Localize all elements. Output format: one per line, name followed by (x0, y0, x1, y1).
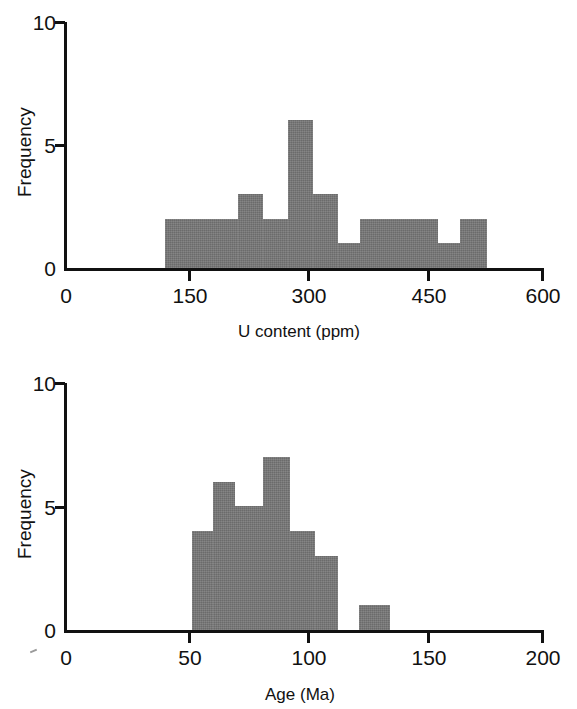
x-axis-line-u (64, 268, 544, 271)
chart-panel-age: Frequency 0 5 10 FT Age: 77.9 ± 6.1 Ma (0, 350, 577, 709)
x-tick-u-300 (307, 271, 310, 281)
bar-u-2 (238, 194, 263, 268)
bar-age-7 (359, 605, 390, 630)
x-tick-age-100 (307, 633, 310, 643)
bar-u-7 (360, 219, 438, 268)
bar-age-1 (192, 531, 213, 630)
x-tick-label-age-100: 100 (279, 647, 339, 668)
x-axis-title-u: U content (ppm) (169, 322, 429, 342)
x-tick-label-age-150: 150 (399, 647, 459, 668)
x-tick-age-150 (427, 633, 430, 643)
x-tick-label-u-450: 450 (399, 285, 459, 306)
bar-u-5 (313, 194, 338, 268)
x-axis-title-age: Age (Ma) (215, 685, 385, 705)
x-tick-label-age-50: 50 (165, 647, 215, 668)
bar-u-6 (338, 243, 360, 268)
x-tick-label-u-300: 300 (279, 285, 339, 306)
x-tick-label-age-200: 200 (513, 647, 573, 668)
x-axis-line-age (64, 630, 544, 633)
bar-u-8 (438, 243, 460, 268)
x-tick-u-150 (188, 271, 191, 281)
bar-u-9 (460, 219, 487, 268)
bar-u-3 (263, 219, 288, 268)
x-tick-label-u-150: 150 (160, 285, 220, 306)
bar-u-4 (288, 120, 313, 268)
x-tick-age-50 (188, 633, 191, 643)
x-tick-u-450 (427, 271, 430, 281)
plot-area-age: Frequency 0 5 10 FT Age: 77.9 ± 6.1 Ma (0, 350, 577, 660)
chart-panel-u-content: Frequency 0 5 10 (0, 0, 577, 350)
x-tick-label-age-0: 0 (46, 647, 86, 668)
bar-series-u-content (0, 0, 577, 268)
bar-age-4 (263, 457, 290, 630)
x-tick-u-600 (541, 271, 544, 281)
x-tick-label-u-0: 0 (46, 285, 86, 306)
bar-age-3 (235, 506, 263, 630)
bar-age-2 (213, 482, 235, 630)
scan-artifact-mark (30, 649, 37, 653)
bar-age-5 (290, 531, 315, 630)
bar-series-age (0, 350, 577, 630)
x-tick-age-200 (541, 633, 544, 643)
x-tick-label-u-600: 600 (513, 285, 573, 306)
plot-area-u-content: Frequency 0 5 10 (0, 0, 577, 300)
bar-u-1 (165, 219, 238, 268)
bar-age-6 (315, 556, 338, 630)
figure-root: Frequency 0 5 10 (0, 0, 577, 709)
